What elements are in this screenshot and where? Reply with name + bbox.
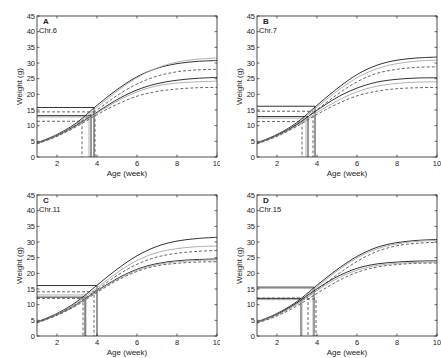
chromosome-label: Chr.15 xyxy=(259,205,281,214)
y-tick-label: 40 xyxy=(27,206,35,215)
chromosome-label: Chr.6 xyxy=(39,26,57,35)
y-tick-label: 20 xyxy=(27,269,35,278)
y-tick-label: 25 xyxy=(247,253,255,262)
panel-b: 051015202530354045246810Age (week)Weight… xyxy=(220,0,441,179)
axis-ticks: 051015202530354045246810 xyxy=(27,12,220,168)
x-tick-label: 10 xyxy=(213,159,220,168)
chart-panel-a: 051015202530354045246810Age (week)Weight… xyxy=(0,0,220,179)
curve-solid-upper xyxy=(257,239,437,321)
growth-curves xyxy=(257,239,437,323)
x-tick-label: 4 xyxy=(315,159,319,168)
x-tick-label: 6 xyxy=(355,159,359,168)
x-tick-label: 8 xyxy=(175,338,179,347)
y-tick-label: 15 xyxy=(27,106,35,115)
curve-solid-lower xyxy=(257,261,437,323)
curve-solid-upper xyxy=(37,60,217,142)
x-tick-label: 2 xyxy=(275,338,279,347)
x-axis-label: Age (week) xyxy=(327,348,368,357)
growth-curves xyxy=(37,237,217,323)
x-tick-label: 2 xyxy=(55,159,59,168)
x-tick-label: 6 xyxy=(135,338,139,347)
x-tick-label: 4 xyxy=(315,338,319,347)
curve-dashed-lower xyxy=(37,262,217,323)
x-tick-label: 6 xyxy=(355,338,359,347)
y-tick-label: 30 xyxy=(247,238,255,247)
x-axis-label: Age (week) xyxy=(327,169,368,178)
x-tick-label: 8 xyxy=(395,338,399,347)
x-tick-label: 10 xyxy=(213,338,220,347)
curve-gray-upper xyxy=(37,246,217,322)
curve-gray-upper xyxy=(257,240,437,322)
x-tick-label: 2 xyxy=(275,159,279,168)
reference-line xyxy=(37,298,83,336)
y-tick-label: 10 xyxy=(247,300,255,309)
x-axis-label: Age (week) xyxy=(107,169,148,178)
y-axis-label: Weight (g) xyxy=(15,68,24,105)
panel-letter: B xyxy=(263,17,269,26)
axis-ticks: 051015202530354045246810 xyxy=(247,191,441,347)
panel-d: 051015202530354045246810Age (week)Weight… xyxy=(220,179,441,358)
panel-letter: D xyxy=(263,196,269,205)
y-tick-label: 30 xyxy=(27,59,35,68)
y-tick-label: 35 xyxy=(247,43,255,52)
curve-gray-lower xyxy=(37,81,217,144)
reference-line xyxy=(257,299,316,336)
y-tick-label: 45 xyxy=(247,191,255,200)
panel-a: 051015202530354045246810Age (week)Weight… xyxy=(0,0,220,179)
panel-letter: A xyxy=(43,17,49,26)
y-tick-label: 5 xyxy=(31,316,35,325)
x-axis-label: Age (week) xyxy=(107,348,148,357)
y-tick-label: 40 xyxy=(247,206,255,215)
plot-frame xyxy=(257,16,437,157)
y-tick-label: 0 xyxy=(251,153,255,162)
chromosome-label: Chr.7 xyxy=(259,26,277,35)
x-tick-label: 8 xyxy=(395,159,399,168)
y-axis-label: Weight (g) xyxy=(235,68,244,105)
y-tick-label: 5 xyxy=(31,137,35,146)
y-tick-label: 0 xyxy=(31,332,35,341)
growth-curves xyxy=(257,57,437,144)
y-tick-label: 45 xyxy=(27,12,35,21)
reference-line xyxy=(37,295,86,336)
y-tick-label: 35 xyxy=(27,43,35,52)
reference-line xyxy=(257,118,306,157)
x-tick-label: 4 xyxy=(95,159,99,168)
y-tick-label: 25 xyxy=(27,74,35,83)
y-axis-label: Weight (g) xyxy=(15,247,24,284)
y-tick-label: 0 xyxy=(251,332,255,341)
y-tick-label: 10 xyxy=(27,300,35,309)
y-tick-label: 5 xyxy=(251,316,255,325)
y-tick-label: 20 xyxy=(247,90,255,99)
curve-solid-lower xyxy=(37,77,217,143)
chromosome-label: Chr.11 xyxy=(39,205,61,214)
plot-frame xyxy=(37,16,217,157)
curve-solid-upper xyxy=(37,237,217,322)
chart-panel-d: 051015202530354045246810Age (week)Weight… xyxy=(220,179,441,358)
curve-gray-lower xyxy=(37,260,217,323)
y-tick-label: 30 xyxy=(247,59,255,68)
x-tick-label: 8 xyxy=(175,159,179,168)
curve-gray-lower xyxy=(257,82,437,144)
y-tick-label: 25 xyxy=(27,253,35,262)
y-tick-label: 20 xyxy=(27,90,35,99)
y-tick-label: 20 xyxy=(247,269,255,278)
y-tick-label: 15 xyxy=(247,106,255,115)
y-tick-label: 35 xyxy=(247,222,255,231)
y-tick-label: 25 xyxy=(247,74,255,83)
y-tick-label: 10 xyxy=(27,121,35,130)
x-tick-label: 10 xyxy=(433,338,441,347)
x-tick-label: 6 xyxy=(135,159,139,168)
panel-c: 051015202530354045246810Age (week)Weight… xyxy=(0,179,220,358)
chart-panel-c: 051015202530354045246810Age (week)Weight… xyxy=(0,179,220,358)
panel-letter: C xyxy=(43,196,49,205)
x-tick-label: 10 xyxy=(433,159,441,168)
y-tick-label: 30 xyxy=(27,238,35,247)
x-tick-label: 2 xyxy=(55,338,59,347)
curve-gray-lower xyxy=(257,262,437,323)
y-tick-label: 40 xyxy=(247,27,255,36)
y-tick-label: 40 xyxy=(27,27,35,36)
y-tick-label: 35 xyxy=(27,222,35,231)
x-tick-label: 4 xyxy=(95,338,99,347)
y-tick-label: 45 xyxy=(27,191,35,200)
y-tick-label: 15 xyxy=(247,285,255,294)
